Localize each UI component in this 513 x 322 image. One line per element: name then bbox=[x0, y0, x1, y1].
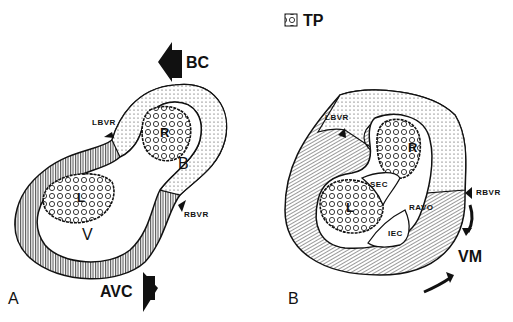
label-r-b: R bbox=[408, 140, 417, 155]
legend-label: TP bbox=[303, 12, 323, 30]
label-l-a: L bbox=[77, 190, 85, 205]
legend-swatch-icon bbox=[285, 14, 297, 26]
label-bc: BC bbox=[186, 54, 209, 72]
label-b: B bbox=[178, 155, 189, 173]
heart-diagram bbox=[0, 0, 513, 322]
label-v: V bbox=[82, 226, 93, 244]
panel-label-a: A bbox=[8, 290, 19, 308]
label-ravo: RAVO bbox=[409, 203, 434, 212]
label-lbvr-b: LBVR bbox=[325, 113, 349, 122]
label-vm: VM bbox=[458, 248, 482, 266]
label-lbvr-a: LBVR bbox=[92, 118, 116, 127]
label-iec: IEC bbox=[388, 229, 403, 238]
label-sec: SEC bbox=[370, 180, 388, 189]
bc-arrow-icon bbox=[158, 42, 182, 82]
label-l-b: L bbox=[346, 200, 354, 215]
label-r-a: R bbox=[160, 125, 169, 140]
rbvr-arrow-icon-b bbox=[465, 187, 472, 199]
panel-a-heart-loop bbox=[15, 84, 227, 278]
label-rbvr-a: RBVR bbox=[184, 210, 209, 219]
panel-label-b: B bbox=[288, 290, 299, 308]
label-rbvr-b: RBVR bbox=[476, 188, 501, 197]
lbvr-arrow-icon bbox=[104, 132, 114, 138]
vm-arrow-down-icon bbox=[468, 205, 472, 232]
label-avc: AVC bbox=[100, 283, 133, 301]
vm-arrow-up-icon bbox=[424, 278, 450, 292]
